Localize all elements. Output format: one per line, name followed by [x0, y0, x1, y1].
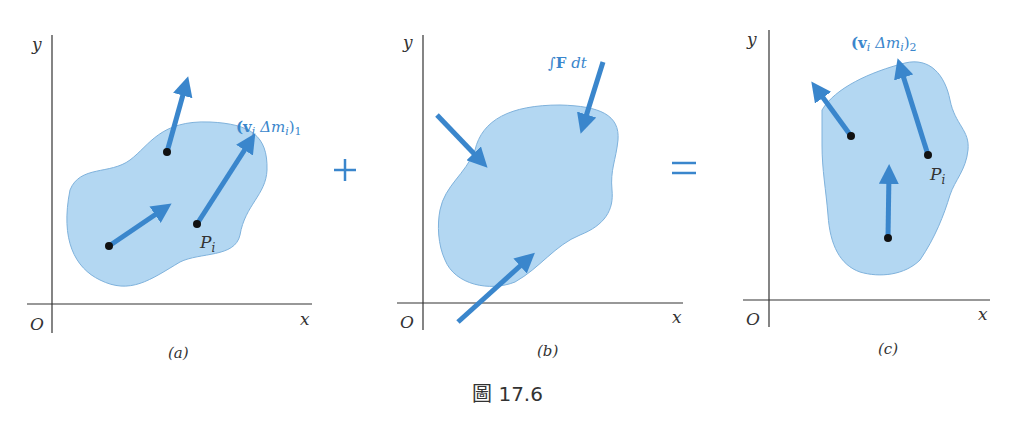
momentum-arrow	[888, 172, 889, 238]
rigid-body-blob	[822, 62, 968, 275]
origin-label: O	[30, 314, 44, 334]
panel-a: y x O Pi (vi Δmi)1 (a)	[27, 34, 312, 362]
y-axis-label: y	[746, 29, 757, 49]
y-axis-label: y	[31, 34, 42, 54]
momentum-label-2: (vi Δmi)2	[851, 34, 917, 54]
equals-operator	[672, 163, 696, 173]
panel-label-b: (b)	[537, 342, 558, 360]
particle-dot-Pi	[924, 151, 932, 159]
origin-label: O	[400, 312, 414, 332]
momentum-impulse-diagram: y x O Pi (vi Δmi)1 (a) y x O ∫F dt (b)	[0, 0, 1015, 424]
particle-dot	[884, 234, 892, 242]
momentum-label-1: (vi Δmi)1	[236, 118, 302, 138]
particle-dot	[163, 148, 171, 156]
origin-label: O	[746, 309, 760, 329]
panel-b: y x O ∫F dt (b)	[397, 32, 683, 360]
x-axis-label: x	[978, 304, 988, 324]
plus-operator	[334, 159, 356, 181]
panel-c: y x O Pi (vi Δmi)2 (c)	[743, 29, 990, 358]
figure-caption: 圖 17.6	[0, 378, 1015, 407]
y-axis-label: y	[402, 32, 413, 52]
impulse-label: ∫F dt	[548, 54, 588, 72]
x-axis-label: x	[672, 307, 682, 327]
particle-dot	[105, 242, 113, 250]
particle-dot	[847, 132, 855, 140]
particle-dot-Pi	[193, 220, 201, 228]
impulse-arrow	[437, 115, 482, 162]
panel-label-c: (c)	[878, 340, 898, 358]
x-axis-label: x	[300, 309, 310, 329]
panel-label-a: (a)	[168, 344, 189, 362]
